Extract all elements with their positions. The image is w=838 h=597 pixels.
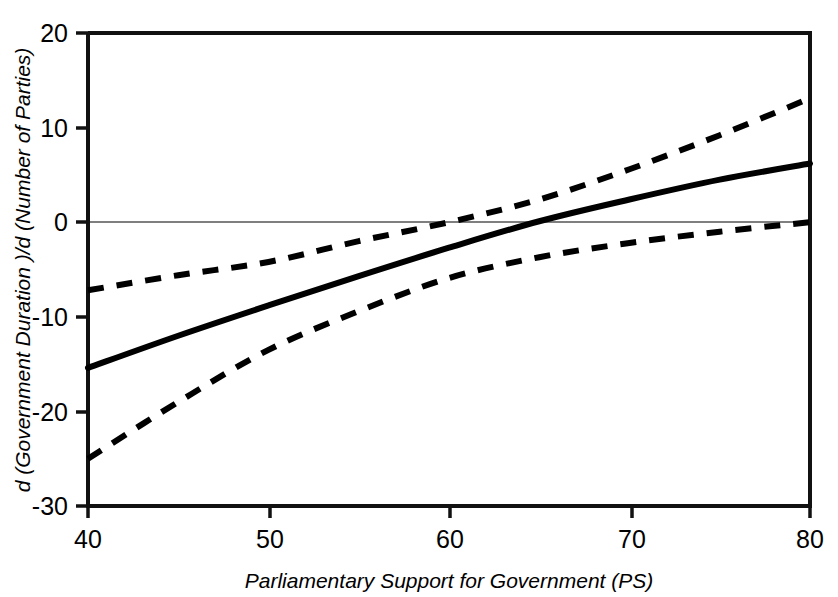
- ytick-label-minus-20: -20: [32, 398, 68, 426]
- y-axis-title: d (Government Duration )/d (Number of Pa…: [11, 48, 34, 493]
- xtick-label-50: 50: [256, 525, 284, 553]
- xtick-label-60: 60: [436, 525, 464, 553]
- figure-container: 20 10 0 -10 -20 -30 40 50 60 70 80 Parli…: [0, 0, 838, 597]
- xtick-label-70: 70: [618, 525, 646, 553]
- xtick-label-80: 80: [796, 525, 824, 553]
- ytick-label-0: 0: [54, 208, 68, 236]
- ytick-label-minus-30: -30: [32, 492, 68, 520]
- ytick-label-10: 10: [40, 114, 68, 142]
- ytick-label-20: 20: [40, 19, 68, 47]
- marginal-effect-plot: 20 10 0 -10 -20 -30 40 50 60 70 80 Parli…: [0, 0, 838, 597]
- xtick-label-40: 40: [74, 525, 102, 553]
- x-axis-title: Parliamentary Support for Government (PS…: [245, 569, 654, 592]
- ytick-label-minus-10: -10: [32, 303, 68, 331]
